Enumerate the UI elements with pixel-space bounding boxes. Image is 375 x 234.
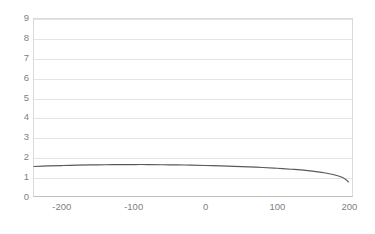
y-tick-label-3: 3	[5, 132, 29, 142]
line-series-1	[34, 165, 348, 182]
x-tick-label-0: 0	[183, 201, 229, 213]
y-tick-label-1: 1	[5, 172, 29, 182]
y-tick-label-5: 5	[5, 93, 29, 103]
x-tick-label--100: -100	[111, 201, 157, 213]
plot-area	[33, 18, 353, 197]
y-tick-label-2: 2	[5, 152, 29, 162]
x-tick-label-100: 100	[254, 201, 300, 213]
y-tick-label-4: 4	[5, 112, 29, 122]
series-layer	[34, 19, 352, 196]
x-tick-label--200: -200	[39, 201, 85, 213]
x-axis: -200-1000100200	[33, 201, 353, 215]
y-tick-label-8: 8	[5, 33, 29, 43]
x-tick-label-200: 200	[326, 201, 372, 213]
y-axis: 0123456789	[5, 18, 29, 197]
y-tick-label-6: 6	[5, 73, 29, 83]
chart-container: 0123456789 -200-1000100200	[0, 0, 375, 234]
y-tick-label-0: 0	[5, 192, 29, 202]
y-tick-label-7: 7	[5, 53, 29, 63]
y-tick-label-9: 9	[5, 13, 29, 23]
